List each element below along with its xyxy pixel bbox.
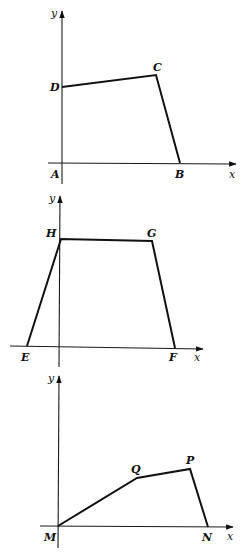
diagram-efgh: y x H G E F — [10, 192, 203, 367]
diagram-abcd: y x D C A B — [48, 7, 236, 184]
point-label-f: F — [168, 351, 178, 364]
y-axis — [59, 196, 60, 367]
y-axis-label: y — [47, 372, 55, 385]
x-axis-label: x — [229, 168, 236, 181]
point-label-a: A — [50, 168, 60, 181]
point-label-b: B — [174, 168, 184, 181]
point-label-p: P — [185, 454, 195, 467]
y-axis — [58, 376, 59, 548]
x-axis-label: x — [227, 530, 234, 543]
diagram-mnpq: y x Q P M N — [40, 372, 234, 548]
polyline-dcb — [62, 75, 180, 163]
point-label-h: H — [45, 227, 57, 240]
point-label-q: Q — [131, 463, 141, 476]
x-axis-label: x — [194, 351, 201, 364]
point-label-m: M — [43, 531, 57, 544]
x-axis — [40, 526, 233, 527]
polyline-ehgf — [27, 239, 175, 348]
polyline-mqpn — [58, 469, 208, 527]
y-axis-label: y — [48, 192, 56, 205]
point-label-c: C — [153, 61, 162, 74]
y-axis-label: y — [50, 7, 58, 20]
point-label-d: D — [49, 81, 60, 94]
diagram-canvas: y x D C A B y x H G E F y x Q P M N — [0, 0, 245, 559]
point-label-n: N — [201, 531, 213, 544]
x-axis — [48, 163, 236, 164]
point-label-g: G — [147, 227, 156, 240]
point-label-e: E — [20, 351, 30, 364]
